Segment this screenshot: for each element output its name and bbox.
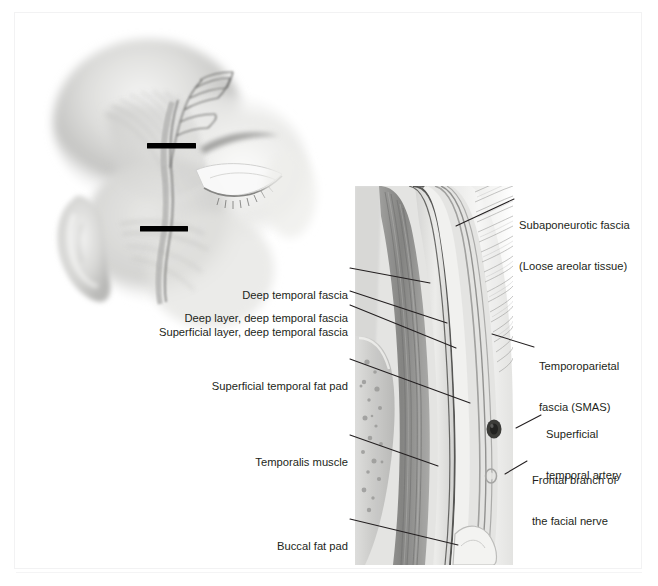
- leader-superficial-artery: [516, 415, 541, 428]
- label-buccal-fat-pad: Buccal fat pad: [110, 513, 348, 581]
- label-line: Buccal fat pad: [110, 540, 348, 554]
- label-line: Superficial temporal fat pad: [60, 380, 348, 394]
- lower-section-level-bar: [140, 226, 188, 232]
- anatomy-figure: Deep temporal fascia Deep layer, deep te…: [0, 0, 658, 586]
- label-frontal-branch-facial-nerve: Frontal branch of the facial nerve: [532, 447, 658, 555]
- label-line: Superficial layer, deep temporal fascia: [20, 326, 348, 340]
- label-superficial-temporal-fat-pad: Superficial temporal fat pad: [60, 353, 348, 421]
- label-line: the facial nerve: [532, 515, 658, 529]
- label-line: Temporalis muscle: [90, 456, 348, 470]
- nasal-bridge-shading: [264, 150, 316, 238]
- upper-section-level-bar: [147, 143, 196, 149]
- temporal-region-cross-section: [355, 186, 513, 565]
- label-line: Temporoparietal: [539, 360, 658, 374]
- label-line: Superficial: [546, 428, 658, 442]
- label-subaponeurotic-fascia: Subaponeurotic fascia (Loose areolar tis…: [519, 192, 658, 300]
- label-line: Frontal branch of: [532, 474, 658, 488]
- label-temporalis-muscle: Temporalis muscle: [90, 429, 348, 497]
- label-line: Subaponeurotic fascia: [519, 219, 658, 233]
- label-line: (Loose areolar tissue): [519, 260, 658, 274]
